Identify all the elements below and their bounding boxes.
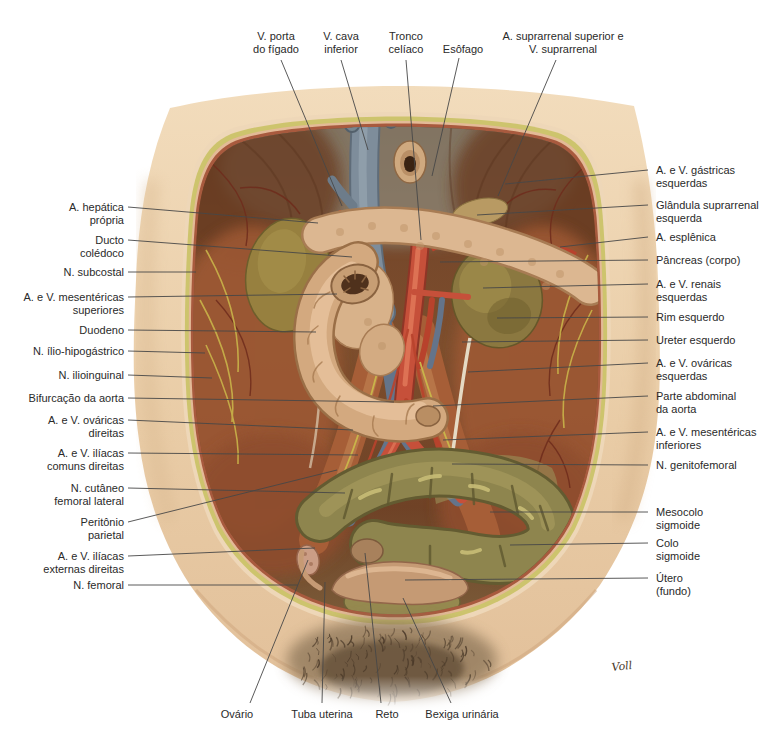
label-a-e-v-ovaricas-direitas: A. e V. ováricas direitas bbox=[48, 414, 124, 439]
label-n-cutaneo-femoral-lateral: N. cutâneo femoral lateral bbox=[54, 482, 124, 507]
label-n-ilio-hipogastrico: N. ílio-hipogástrico bbox=[33, 345, 124, 358]
label-a-e-v-ovaricas-esquerdas: A. e V. ováricas esquerdas bbox=[656, 357, 732, 382]
label-reto: Reto bbox=[375, 708, 398, 721]
label-ducto-coledoco: Ducto colédoco bbox=[80, 234, 124, 259]
label-v-cava-inferior: V. cava inferior bbox=[323, 30, 359, 55]
label-bexiga-urinaria: Bexiga urinária bbox=[425, 708, 498, 721]
label-utero-fundo: Útero (fundo) bbox=[656, 572, 691, 597]
label-a-e-v-iliacas-comuns-direitas: A. e V. ilíacas comuns direitas bbox=[47, 447, 124, 472]
label-mesocolo-sigmoide: Mesocolo sigmoide bbox=[656, 506, 703, 531]
label-colo-sigmoide: Colo sigmoide bbox=[656, 537, 700, 562]
label-a-suprarrenal-superior-e-v-suprarrenal: A. suprarrenal superior e V. suprarrenal bbox=[502, 30, 623, 55]
anatomy-figure: Voll V. porta do fígadoV. cava inferiorT… bbox=[0, 0, 771, 755]
label-esofago: Esôfago bbox=[443, 43, 483, 56]
label-n-femoral: N. femoral bbox=[73, 579, 124, 592]
artist-signature: Voll bbox=[611, 659, 633, 674]
label-n-subcostal: N. subcostal bbox=[63, 266, 124, 279]
label-ovario: Ovário bbox=[221, 708, 253, 721]
label-parte-abdominal-da-aorta: Parte abdominal da aorta bbox=[656, 390, 736, 415]
rectum bbox=[351, 539, 383, 563]
label-a-e-v-renais-esquerdas: A. e V. renais esquerdas bbox=[656, 278, 721, 303]
label-a-hepatica-propria: A. hepática própria bbox=[69, 201, 124, 226]
label-a-e-v-gastricas-esquerdas: A. e V. gástricas esquerdas bbox=[656, 164, 735, 189]
label-a-e-v-mesentericas-superiores: A. e V. mesentéricas superiores bbox=[24, 291, 124, 316]
label-glandula-suprarrenal-esquerda: Glândula suprarrenal esquerda bbox=[656, 199, 759, 224]
label-rim-esquerdo: Rim esquerdo bbox=[656, 311, 724, 324]
label-ureter-esquerdo: Ureter esquerdo bbox=[656, 334, 736, 347]
label-v-porta-do-figado: V. porta do fígado bbox=[253, 30, 299, 55]
label-n-ilioinguinal: N. ilioinguinal bbox=[59, 369, 124, 382]
label-a-esplenica: A. esplênica bbox=[656, 231, 716, 244]
label-a-e-v-mesentericas-inferiores: A. e V. mesentéricas inferiores bbox=[656, 426, 756, 451]
label-tronco-celiaco: Tronco celíaco bbox=[389, 30, 424, 55]
label-pancreas-corpo: Pâncreas (corpo) bbox=[656, 254, 740, 267]
label-a-e-v-iliacas-externas-direitas: A. e V. ilíacas externas direitas bbox=[43, 550, 124, 575]
label-peritonio-parietal: Peritônio parietal bbox=[81, 516, 124, 541]
label-tuba-uterina: Tuba uterina bbox=[291, 708, 352, 721]
label-bifurcacao-da-aorta: Bifurcação da aorta bbox=[29, 392, 124, 405]
label-n-genitofemoral: N. genitofemoral bbox=[656, 459, 737, 472]
label-duodeno: Duodeno bbox=[79, 324, 124, 337]
esophagus bbox=[394, 141, 426, 183]
